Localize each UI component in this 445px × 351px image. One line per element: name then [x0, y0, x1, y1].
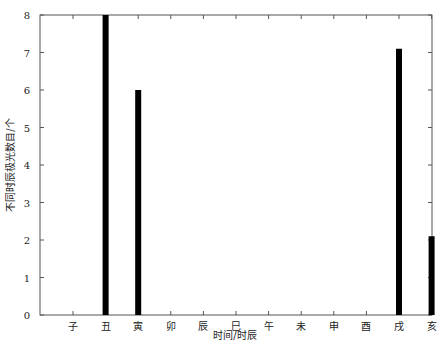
y-tick-label: 0: [24, 310, 30, 321]
y-axis-title: 不同时辰极光数目/个: [4, 118, 16, 211]
y-tick-label: 3: [24, 198, 30, 209]
y-tick-label: 8: [24, 10, 30, 21]
x-axis-title: 时间/时辰: [213, 329, 256, 341]
y-tick-label: 2: [24, 235, 30, 246]
x-tick-label: 酉: [361, 321, 371, 332]
x-tick-label: 戌: [394, 320, 404, 332]
bar: [103, 15, 109, 315]
bar-chart: 012345678子丑寅卯辰巳午未申酉戌亥 时间/时辰 不同时辰极光数目/个: [0, 0, 445, 351]
y-tick-label: 7: [24, 48, 30, 59]
x-tick-label: 寅: [133, 320, 143, 332]
bar: [135, 90, 141, 315]
x-tick-label: 卯: [166, 321, 176, 332]
axes-frame: [40, 15, 432, 315]
y-tick-label: 4: [24, 160, 30, 171]
x-tick-label: 申: [329, 320, 339, 332]
bar: [396, 49, 402, 315]
bar: [429, 236, 435, 315]
y-tick-label: 6: [24, 85, 30, 96]
plot-area: 012345678子丑寅卯辰巳午未申酉戌亥: [24, 10, 437, 332]
x-tick-label: 辰: [198, 321, 208, 332]
x-tick-label: 丑: [101, 321, 111, 332]
x-tick-label: 未: [296, 321, 306, 332]
x-tick-label: 午: [264, 320, 274, 332]
y-tick-label: 5: [24, 123, 30, 134]
x-tick-label: 子: [68, 321, 78, 332]
x-tick-label: 亥: [427, 320, 437, 332]
y-tick-label: 1: [24, 273, 30, 284]
